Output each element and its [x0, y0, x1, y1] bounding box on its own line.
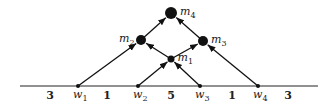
merge-node-m4 — [165, 7, 177, 19]
edge-m1-m2 — [146, 43, 171, 59]
leaf-label-w1: w1 — [73, 88, 88, 103]
edge-w2-m1 — [138, 62, 168, 86]
leaf-label-w4: w4 — [253, 88, 268, 103]
gap-weight-4: 3 — [284, 89, 292, 102]
gap-weight-0: 3 — [46, 89, 54, 102]
leaf-label-w2: w2 — [133, 88, 148, 103]
gap-weight-2: 5 — [167, 89, 175, 102]
edge-m3-m4 — [176, 18, 203, 41]
merge-node-m1 — [168, 56, 175, 63]
merge-node-m3 — [198, 36, 208, 46]
edge-w1-m2 — [78, 44, 136, 86]
merge-node-m2 — [136, 35, 146, 45]
gap-weight-1: 1 — [103, 89, 111, 102]
merge-label-m1: m1 — [178, 51, 194, 66]
edge-w4-m3 — [208, 45, 258, 86]
edges — [78, 18, 258, 86]
leaf-label-w3: w3 — [195, 88, 210, 103]
merge-tree-diagram: w1w2w3w4m1m2m3m4 31513 — [0, 0, 335, 111]
edge-m2-m4 — [141, 18, 166, 40]
merge-label-m3: m3 — [211, 33, 227, 48]
gap-weight-3: 1 — [228, 89, 236, 102]
merge-label-m4: m4 — [180, 5, 196, 20]
nodes — [76, 7, 260, 88]
merge-label-m2: m2 — [119, 32, 135, 47]
